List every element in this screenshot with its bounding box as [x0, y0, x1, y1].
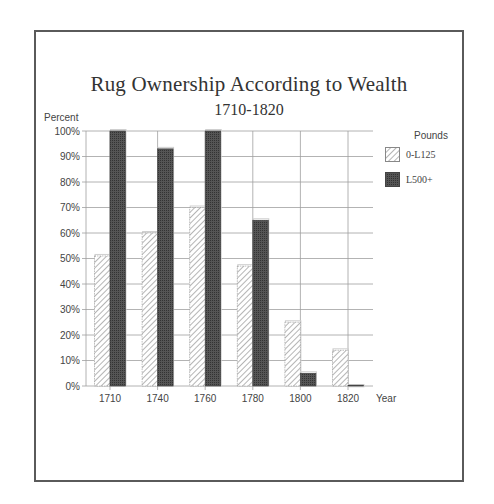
y-tick-label: 40%	[60, 279, 80, 290]
x-tick-label: 1780	[242, 393, 265, 404]
bar-chart: 0%10%20%30%40%50%60%70%80%90%100% 171017…	[0, 0, 494, 504]
x-tick-labels: 171017401760178018001820	[99, 393, 360, 404]
legend-swatch-solid	[385, 172, 400, 187]
y-tick-label: 70%	[60, 202, 80, 213]
legend-item-l500-plus: L500+	[385, 172, 433, 187]
bar-l500-plus-1710	[110, 131, 126, 386]
x-tick-label: 1760	[194, 393, 217, 404]
bar-l500-plus-1740	[158, 149, 174, 386]
bar-0-l125-1760	[190, 208, 206, 387]
legend-swatch-hatched	[385, 147, 400, 162]
legend-label: 0-L125	[406, 149, 435, 160]
y-tick-label: 30%	[60, 304, 80, 315]
bar-0-l125-1800	[285, 322, 301, 386]
y-tick-label: 50%	[60, 253, 80, 264]
y-tick-label: 80%	[60, 177, 80, 188]
bar-l500-plus-1800	[300, 373, 316, 386]
bar-0-l125-1780	[237, 266, 253, 386]
y-tick-label: 60%	[60, 228, 80, 239]
bar-l500-plus-1760	[205, 131, 221, 386]
y-tick-label: 100%	[54, 126, 80, 137]
y-tick-label: 10%	[60, 355, 80, 366]
bar-0-l125-1710	[95, 256, 111, 386]
bar-l500-plus-1820	[348, 385, 364, 386]
x-tick-label: 1820	[337, 393, 360, 404]
legend-title: Pounds	[414, 130, 448, 141]
y-tick-label: 90%	[60, 151, 80, 162]
bar-l500-plus-1780	[253, 220, 268, 386]
x-tick-label: 1800	[289, 393, 312, 404]
x-axis-label: Year	[376, 393, 397, 404]
bar-0-l125-1820	[333, 350, 349, 386]
legend-item-0-l125: 0-L125	[385, 147, 435, 162]
x-tick-label: 1710	[99, 393, 122, 404]
legend-label: L500+	[406, 174, 433, 185]
bar-0-l125-1740	[142, 233, 158, 386]
x-tick-label: 1740	[146, 393, 169, 404]
y-tick-label: 0%	[66, 381, 81, 392]
y-tick-labels: 0%10%20%30%40%50%60%70%80%90%100%	[54, 126, 80, 392]
y-tick-label: 20%	[60, 330, 80, 341]
